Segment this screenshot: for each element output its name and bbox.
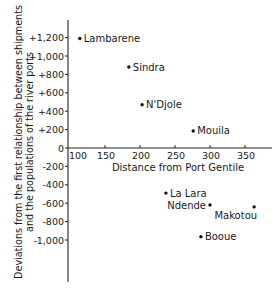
point-marker [192, 129, 195, 132]
x-tick-label: 150 [97, 150, 115, 161]
point-marker [199, 235, 202, 238]
point-label: Booue [205, 231, 237, 242]
y-tick-label: -400 [42, 179, 64, 190]
data-points: LambareneSindraN'DjoleMouilaLa LaraNdend… [78, 33, 257, 242]
point-label: N'Djole [146, 99, 182, 110]
y-tick-label: -1,000 [33, 235, 64, 246]
data-point: La Lara [164, 188, 207, 199]
x-axis: 100150200250300350Distance from Port Gen… [68, 145, 272, 173]
y-tick-label: -800 [42, 216, 64, 227]
y-tick-label: +200 [38, 124, 64, 135]
x-tick-label: 300 [202, 150, 220, 161]
y-tick-label: -200 [42, 161, 64, 172]
x-tick-label: 100 [69, 150, 87, 161]
point-marker [78, 37, 81, 40]
y-tick-label: +1,200 [29, 32, 64, 43]
x-tick-label: 350 [237, 150, 255, 161]
scatter-chart: Deviations from the first relationship b… [0, 0, 277, 295]
data-point: Sindra [127, 62, 165, 73]
x-axis-label: Distance from Port Gentile [112, 162, 244, 173]
point-label: Lambarene [84, 33, 140, 44]
point-label: Sindra [133, 62, 165, 73]
y-tick-label: 0 [58, 143, 64, 154]
point-marker [208, 203, 211, 206]
data-point: Lambarene [78, 33, 140, 44]
data-point: Ndende [167, 200, 212, 211]
point-marker [164, 191, 167, 194]
y-tick-label: +800 [38, 69, 64, 80]
point-label: La Lara [170, 188, 207, 199]
point-marker [140, 103, 143, 106]
data-point: N'Djole [140, 99, 181, 110]
y-tick-label: +1,000 [29, 51, 64, 62]
point-label: Ndende [167, 200, 206, 211]
data-point: Makotou [214, 205, 257, 221]
x-tick-label: 200 [132, 150, 150, 161]
y-tick-label: +600 [38, 87, 64, 98]
y-axis-label-line: Deviations from the first relationship b… [13, 5, 24, 279]
y-axis-label-line: and the populations of the river ports [24, 52, 35, 232]
point-label: Mouila [197, 125, 230, 136]
y-tick-label: -600 [42, 198, 64, 209]
y-tick-label: +400 [38, 106, 64, 117]
x-tick-label: 250 [167, 150, 185, 161]
point-marker [127, 65, 130, 68]
point-marker [252, 205, 255, 208]
y-axis-label: Deviations from the first relationship b… [13, 5, 35, 279]
point-label: Makotou [214, 210, 257, 221]
data-point: Mouila [192, 125, 230, 136]
data-point: Booue [199, 231, 236, 242]
chart-canvas: Deviations from the first relationship b… [0, 0, 277, 295]
